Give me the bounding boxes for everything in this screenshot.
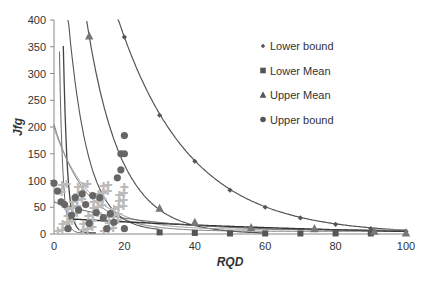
cross-point: ✚ — [103, 185, 112, 198]
circle-point — [93, 209, 100, 216]
circle-point — [50, 180, 57, 187]
circle-point — [121, 132, 128, 139]
circle-point — [82, 201, 89, 208]
circle-point — [121, 150, 128, 157]
circle-point — [64, 225, 71, 232]
circle-point — [96, 194, 103, 201]
legend-label: Upper Mean — [270, 89, 331, 101]
y-tick-label: 50 — [34, 201, 46, 213]
circle-point — [54, 188, 61, 195]
circle-point — [86, 220, 93, 227]
square-point — [192, 230, 198, 236]
x-ticks: 020406080100 — [51, 240, 415, 252]
y-tick-label: 150 — [28, 148, 46, 160]
x-axis-title: RQD — [217, 255, 244, 269]
cross-point: ✚ — [62, 178, 71, 191]
circle-point — [117, 166, 124, 173]
circle-point — [110, 219, 117, 226]
y-tick-label: 200 — [28, 121, 46, 133]
y-tick-label: 350 — [28, 41, 46, 53]
circle-point — [89, 192, 96, 199]
circle-legend-icon — [260, 117, 266, 123]
circle-point — [72, 194, 79, 201]
square-point — [227, 230, 233, 236]
y-tick-label: 250 — [28, 94, 46, 106]
circle-point — [107, 210, 114, 217]
x-tick-label: 80 — [329, 240, 341, 252]
fit-curve — [117, 20, 406, 230]
circle-point — [114, 174, 121, 181]
x-tick-label: 0 — [51, 240, 57, 252]
triangle-point — [85, 32, 93, 40]
x-tick-label: 100 — [397, 240, 415, 252]
diamond-point — [298, 215, 303, 220]
triangle-legend-icon — [260, 91, 267, 97]
circle-point — [121, 225, 128, 232]
circle-point — [68, 212, 75, 219]
y-tick-label: 100 — [28, 175, 46, 187]
circle-point — [61, 201, 68, 208]
cross-point: ✚ — [118, 200, 127, 213]
x-tick-label: 40 — [189, 240, 201, 252]
cross-point: ✚ — [82, 178, 91, 191]
x-tick-label: 20 — [118, 240, 130, 252]
y-ticks: 050100150200250300350400 — [28, 14, 54, 240]
triangle-point — [310, 224, 318, 232]
square-point — [157, 229, 163, 235]
triangle-point — [191, 218, 199, 226]
diamond-legend-icon — [261, 44, 265, 48]
square-legend-icon — [260, 68, 266, 74]
legend: Lower boundLower MeanUpper MeanUpper bou… — [260, 40, 334, 126]
diamond-point — [333, 222, 338, 227]
square-point — [297, 230, 303, 236]
square-point — [262, 230, 268, 236]
circle-point — [75, 206, 82, 213]
data-points: ✚✚✚✚✚✚✚✚✚✚✚✚✚✚✚✚✚✚✚✚✚✚✚✚✚✚✚✚✚✚✚✚✚✚✚✚✚✚✚✚… — [50, 32, 410, 239]
legend-label: Lower Mean — [270, 65, 331, 77]
circle-point — [103, 225, 110, 232]
y-tick-label: 0 — [40, 228, 46, 240]
y-tick-label: 400 — [28, 14, 46, 26]
y-tick-label: 300 — [28, 68, 46, 80]
chart-canvas: 050100150200250300350400 020406080100 RQ… — [0, 0, 429, 283]
square-point — [333, 230, 339, 236]
circle-point — [79, 190, 86, 197]
diamond-point — [122, 35, 127, 40]
circle-point — [100, 214, 107, 221]
y-axis-title: Jfg — [11, 117, 25, 136]
legend-label: Lower bound — [270, 40, 334, 52]
legend-label: Upper bound — [270, 114, 334, 126]
x-tick-label: 60 — [259, 240, 271, 252]
